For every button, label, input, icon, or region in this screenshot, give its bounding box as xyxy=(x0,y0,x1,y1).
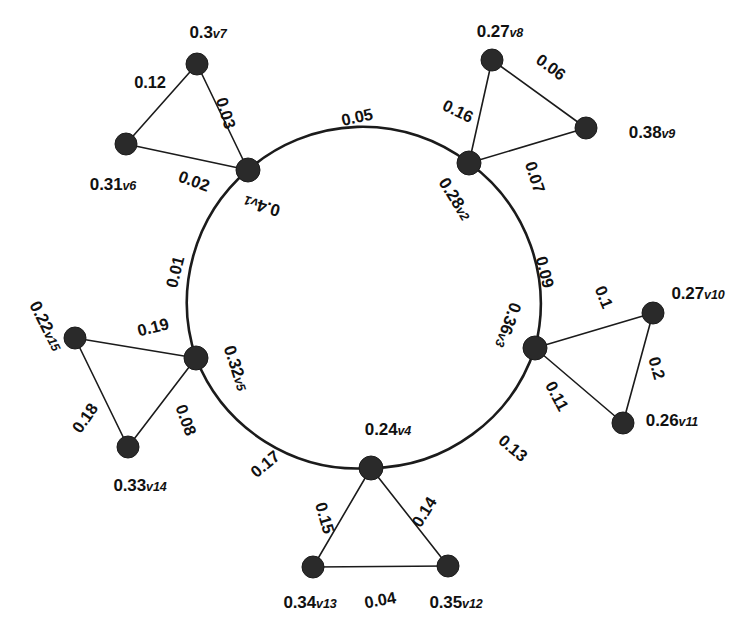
node-v7 xyxy=(186,53,208,75)
node-label-v8-subscript: v8 xyxy=(509,26,523,40)
node-label-v9-subscript: v9 xyxy=(661,127,675,141)
node-label-v9: 0.38v9 xyxy=(629,124,675,141)
edge-v5-v15 xyxy=(75,338,196,358)
node-label-v7-subscript: v7 xyxy=(213,27,227,41)
node-label-v4-subscript: v4 xyxy=(397,424,411,438)
node-v11 xyxy=(612,412,634,434)
node-label-v6: 0.31v6 xyxy=(90,176,136,193)
node-label-v13: 0.34v13 xyxy=(283,594,336,611)
node-label-v1-subscript: v1 xyxy=(243,193,260,210)
edge-v8-v9 xyxy=(492,60,586,128)
node-v15 xyxy=(64,327,86,349)
node-v13 xyxy=(302,556,324,578)
node-label-v12: 0.35v12 xyxy=(429,594,482,611)
node-label-v10: 0.27v10 xyxy=(671,285,724,302)
node-v5 xyxy=(184,346,208,370)
node-label-v8: 0.27v8 xyxy=(477,23,523,40)
ring-edge-v4-v5 xyxy=(196,358,371,468)
node-label-v13-subscript: v13 xyxy=(316,597,337,611)
graph-canvas xyxy=(0,0,742,629)
ring-edge-v1-v2 xyxy=(248,127,469,170)
node-v1 xyxy=(236,158,260,182)
node-label-v12-subscript: v12 xyxy=(462,597,483,611)
node-v3 xyxy=(523,336,547,360)
node-v14 xyxy=(117,436,139,458)
node-label-v10-subscript: v10 xyxy=(704,288,725,302)
node-label-v11-subscript: v11 xyxy=(679,415,699,429)
node-label-v14: 0.33v14 xyxy=(113,477,166,494)
graph-figure: 0.050.090.130.170.010.120.030.020.160.06… xyxy=(0,0,742,629)
ring-edge-v5-v1 xyxy=(187,170,248,358)
edge-v3-v10 xyxy=(535,313,653,348)
node-label-v14-subscript: v14 xyxy=(146,480,167,494)
edge-v6-v1 xyxy=(126,144,248,170)
node-v9 xyxy=(575,117,597,139)
node-label-v7: 0.3v7 xyxy=(189,24,226,41)
node-v8 xyxy=(481,49,503,71)
node-v12 xyxy=(437,555,459,577)
node-label-v4: 0.24v4 xyxy=(365,421,411,438)
node-label-v6-subscript: v6 xyxy=(122,179,136,193)
node-v6 xyxy=(115,133,137,155)
edge-v9-v2 xyxy=(469,128,586,163)
node-v10 xyxy=(642,302,664,324)
edge-weight-label-v6-v7: 0.12 xyxy=(134,74,166,91)
node-label-v11: 0.26v11 xyxy=(646,412,698,429)
node-group xyxy=(64,49,664,578)
edge-v13-v12 xyxy=(313,566,448,567)
node-v2 xyxy=(457,151,481,175)
node-v4 xyxy=(359,456,383,480)
